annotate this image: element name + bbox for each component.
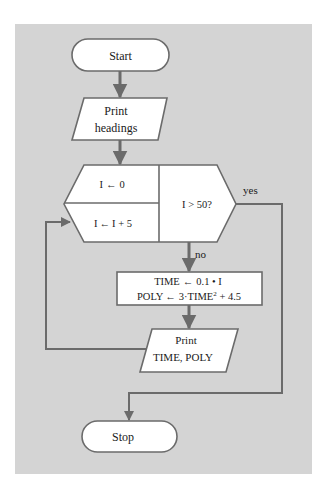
loop-test: I > 50? [182,199,212,210]
loop-hexagon: I←0 I←I + 5 I > 50? [64,165,236,242]
print-headings-io: Print headings [72,98,167,140]
flowchart-figure: Start Print headings I←0 I←I + 5 I > 50?… [0,0,321,494]
no-label: no [195,248,207,260]
diagram-panel [15,24,312,474]
stop-label: Stop [112,430,134,444]
start-label: Start [109,49,132,63]
print-output-line-1: Print [175,334,196,346]
compute-process: TIME←0.1 • I POLY←3·TIME2 + 4.5 [117,272,262,305]
compute-line-poly: POLY←3·TIME2 + 4.5 [137,290,241,302]
print-headings-line-2: headings [95,121,138,135]
stop-terminal: Stop [82,421,177,452]
compute-line-time: TIME←0.1 • I [154,276,222,287]
print-headings-line-1: Print [104,104,128,118]
print-output-io: Print TIME, POLY [140,329,238,372]
start-terminal: Start [72,39,169,71]
loop-increment: I←I + 5 [94,218,132,229]
print-output-line-2: TIME, POLY [153,351,213,363]
yes-label: yes [243,184,258,196]
